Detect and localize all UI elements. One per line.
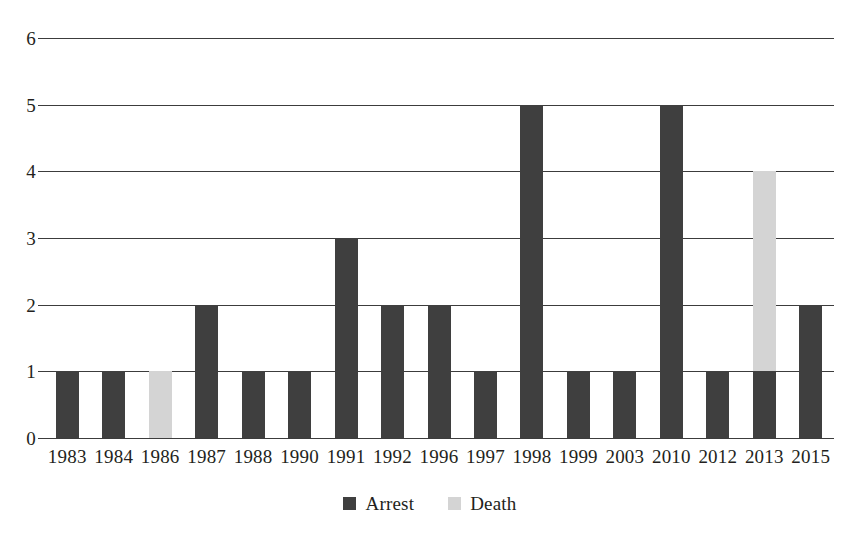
legend-label-arrest: Arrest <box>365 494 414 513</box>
bar-1996[interactable] <box>428 305 451 438</box>
y-axis-tick-labels: 0123456 <box>0 38 36 438</box>
x-tick-label-1990: 1990 <box>280 444 319 470</box>
bar-segment-arrest-2003[interactable] <box>613 371 636 438</box>
legend-item-death[interactable]: Death <box>448 494 516 513</box>
bar-segment-arrest-1991[interactable] <box>335 238 358 438</box>
legend-swatch-arrest <box>343 497 356 510</box>
y-tick-mark-2 <box>38 305 44 306</box>
x-axis-tick-labels: 1983198419861987198819901991199219961997… <box>44 444 834 472</box>
bar-segment-arrest-1999[interactable] <box>567 371 590 438</box>
bar-segment-arrest-1983[interactable] <box>56 371 79 438</box>
x-tick-label-1987: 1987 <box>187 444 226 470</box>
x-tick-label-1986: 1986 <box>141 444 180 470</box>
x-tick-label-1992: 1992 <box>373 444 412 470</box>
y-tick-mark-0 <box>38 438 44 439</box>
bar-segment-arrest-1998[interactable] <box>520 105 543 438</box>
legend-item-arrest[interactable]: Arrest <box>343 494 414 513</box>
bar-segment-death-2013[interactable] <box>753 171 776 371</box>
y-tick-mark-4 <box>38 171 44 172</box>
bar-segment-arrest-2012[interactable] <box>706 371 729 438</box>
x-tick-label-2012: 2012 <box>698 444 737 470</box>
bar-segment-arrest-2013[interactable] <box>753 371 776 438</box>
bar-segment-arrest-2010[interactable] <box>660 105 683 438</box>
bar-2003[interactable] <box>613 371 636 438</box>
bar-1998[interactable] <box>520 105 543 438</box>
y-tick-mark-1 <box>38 371 44 372</box>
bar-segment-arrest-1996[interactable] <box>428 305 451 438</box>
bar-2012[interactable] <box>706 371 729 438</box>
bar-1986[interactable] <box>149 371 172 438</box>
x-tick-label-1996: 1996 <box>420 444 459 470</box>
bar-segment-arrest-1984[interactable] <box>102 371 125 438</box>
bar-1997[interactable] <box>474 371 497 438</box>
bar-2013[interactable] <box>753 171 776 438</box>
y-tick-label-6: 6 <box>26 29 36 48</box>
x-tick-label-1983: 1983 <box>48 444 87 470</box>
y-tick-label-2: 2 <box>26 295 36 314</box>
bar-segment-arrest-1990[interactable] <box>288 371 311 438</box>
bar-1987[interactable] <box>195 305 218 438</box>
legend-swatch-death <box>448 497 461 510</box>
x-tick-label-2003: 2003 <box>605 444 644 470</box>
y-tick-label-1: 1 <box>26 362 36 381</box>
legend-label-death: Death <box>470 494 516 513</box>
y-tick-label-0: 0 <box>26 429 36 448</box>
bar-1990[interactable] <box>288 371 311 438</box>
y-tick-mark-5 <box>38 105 44 106</box>
cropped-chart-title <box>0 0 860 6</box>
bar-segment-arrest-1987[interactable] <box>195 305 218 438</box>
bar-segment-arrest-1988[interactable] <box>242 371 265 438</box>
y-tick-label-3: 3 <box>26 229 36 248</box>
bar-1999[interactable] <box>567 371 590 438</box>
chart-container: 0123456 19831984198619871988199019911992… <box>0 0 860 535</box>
x-tick-label-2010: 2010 <box>652 444 691 470</box>
x-tick-label-1998: 1998 <box>513 444 552 470</box>
bar-2015[interactable] <box>799 305 822 438</box>
bar-1992[interactable] <box>381 305 404 438</box>
bar-1988[interactable] <box>242 371 265 438</box>
gridline-0 <box>44 438 834 439</box>
bar-1983[interactable] <box>56 371 79 438</box>
chart-legend: ArrestDeath <box>0 488 860 518</box>
y-tick-label-4: 4 <box>26 162 36 181</box>
bar-series-group <box>44 38 834 438</box>
bar-segment-death-1986[interactable] <box>149 371 172 438</box>
y-tick-mark-3 <box>38 238 44 239</box>
x-tick-label-1984: 1984 <box>94 444 133 470</box>
bar-1984[interactable] <box>102 371 125 438</box>
bar-1991[interactable] <box>335 238 358 438</box>
bar-segment-arrest-2015[interactable] <box>799 305 822 438</box>
x-tick-label-1997: 1997 <box>466 444 505 470</box>
y-tick-mark-6 <box>38 38 44 39</box>
bar-segment-arrest-1997[interactable] <box>474 371 497 438</box>
x-tick-label-1991: 1991 <box>327 444 366 470</box>
bar-segment-arrest-1992[interactable] <box>381 305 404 438</box>
x-tick-label-1999: 1999 <box>559 444 598 470</box>
bar-2010[interactable] <box>660 105 683 438</box>
x-tick-label-1988: 1988 <box>234 444 273 470</box>
x-tick-label-2013: 2013 <box>745 444 784 470</box>
y-tick-label-5: 5 <box>26 95 36 114</box>
x-tick-label-2015: 2015 <box>791 444 830 470</box>
